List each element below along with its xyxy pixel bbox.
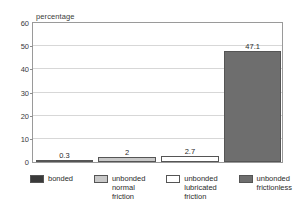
legend-swatch-icon [166,175,180,183]
bar: 2.7 [161,156,219,162]
y-axis-title: percentage [36,12,75,21]
legend-item[interactable]: unbonded lubricated friction [166,174,217,201]
y-tick-label: 30 [21,88,29,97]
legend-label: unbonded normal friction [112,174,145,201]
legend-swatch-icon [30,175,44,183]
bars-container: 0.322.747.1 [33,23,282,162]
bar-value-label: 47.1 [245,42,260,51]
legend-item[interactable]: unbonded normal friction [94,174,145,201]
bar-value-label: 0.3 [59,151,69,160]
bar: 47.1 [224,51,282,162]
y-tick-label: 40 [21,65,29,74]
legend-item[interactable]: unbonded frictionless [239,174,292,192]
y-tick-label: 20 [21,111,29,120]
y-tick-label: 10 [21,134,29,143]
bar-value-label: 2 [125,148,129,157]
bar: 2 [98,157,156,162]
plot-area: 0102030405060 0.322.747.1 [32,22,283,163]
chart-legend: bondedunbonded normal frictionunbonded l… [30,174,292,201]
bar-chart: percentage 0102030405060 0.322.747.1 bon… [0,0,298,221]
legend-swatch-icon [239,175,253,183]
legend-label: bonded [48,174,73,183]
y-tick-label: 0 [25,158,29,167]
legend-item[interactable]: bonded [30,174,73,183]
y-tick-label: 50 [21,42,29,51]
legend-label: unbonded frictionless [257,174,292,192]
legend-label: unbonded lubricated friction [184,174,217,201]
y-tick-label: 60 [21,19,29,28]
bar: 0.3 [36,160,94,162]
legend-swatch-icon [94,175,108,183]
bar-value-label: 2.7 [185,147,195,156]
